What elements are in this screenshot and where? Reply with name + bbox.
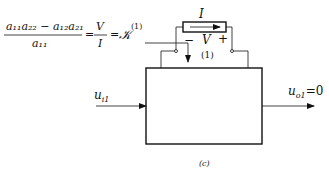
input-label: ui1 [94,88,109,104]
voltage-label: V [202,33,211,47]
port-label: (1) [201,50,214,60]
equals-sign-2: = [110,28,119,41]
two-port-box [146,68,262,144]
rhs-denominator: I [98,37,102,50]
figure-caption: (c) [199,159,210,168]
equals-sign: = [85,28,94,41]
rhs-numerator: V [96,20,104,33]
minus-sign: − [184,33,194,47]
terminal-right [231,50,234,53]
result-superscript: (1) [131,22,142,31]
plus-sign: + [218,32,228,46]
result-symbol: 𝒦 [119,27,131,43]
output-label: uo1=0 [288,84,323,100]
current-label: I [199,7,204,21]
terminal-left [175,50,178,53]
equation-denominator: a₁₁ [32,37,47,50]
equation-numerator: a₁₁a₂₂ − a₁₂a₂₁ [6,20,84,33]
